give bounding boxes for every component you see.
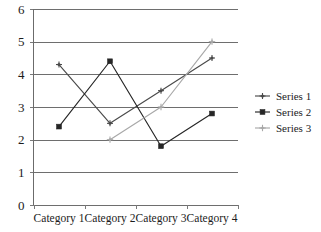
y-axis-tick-label: 2 — [18, 132, 25, 147]
y-axis-tick-label: 3 — [18, 100, 25, 115]
x-axis-tick-label: Category 3 — [136, 212, 187, 225]
chart-legend: Series 1Series 2Series 3 — [255, 90, 312, 134]
series-data-point — [108, 59, 113, 64]
x-axis-tick-label: Category 1 — [34, 212, 85, 225]
chart-background — [0, 0, 321, 232]
y-axis-tick-label: 0 — [18, 198, 25, 213]
line-chart: 0123456 Category 1Category 2Category 3Ca… — [0, 0, 321, 232]
series-data-point — [57, 124, 62, 129]
x-axis-tick-label: Category 2 — [85, 212, 136, 225]
y-axis-tick-label: 6 — [18, 2, 25, 17]
series-data-point — [210, 111, 215, 116]
legend-marker-icon — [260, 110, 265, 115]
legend-item-label: Series 1 — [276, 90, 311, 102]
x-axis-tick-labels: Category 1Category 2Category 3Category 4 — [34, 212, 238, 225]
series-data-point — [159, 144, 164, 149]
y-axis-tick-label: 1 — [18, 165, 25, 180]
chart-canvas: 0123456 Category 1Category 2Category 3Ca… — [0, 0, 321, 232]
y-axis-tick-label: 4 — [18, 67, 25, 82]
x-axis-tick-label: Category 4 — [187, 212, 238, 225]
legend-item-label: Series 2 — [276, 106, 311, 118]
legend-item-label: Series 3 — [276, 122, 312, 134]
y-axis-tick-label: 5 — [18, 34, 25, 49]
